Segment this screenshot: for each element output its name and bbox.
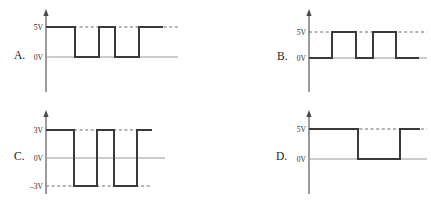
y-axis-arrow-icon xyxy=(306,110,311,117)
tick-label-zero: 0V xyxy=(297,54,307,63)
panel-c: 3V 0V –3V C. xyxy=(0,102,215,204)
panel-a: 5V 0V A. xyxy=(0,0,215,102)
y-axis-arrow-icon xyxy=(43,9,48,16)
tick-label-zero: 0V xyxy=(34,154,44,163)
panel-d: 5V 0V D. xyxy=(215,102,430,204)
tick-label-zero: 0V xyxy=(34,53,44,62)
tick-label-high: 5V xyxy=(297,28,307,37)
tick-label-high: 5V xyxy=(34,23,44,32)
waveform-figure: 5V 0V A. 5V 0V B. xyxy=(0,0,431,205)
y-axis-arrow-icon xyxy=(306,9,311,16)
tick-label-high: 5V xyxy=(297,125,307,134)
panel-letter-c: C. xyxy=(14,150,25,162)
waveform-trace xyxy=(46,27,163,57)
panel-letter-d: D. xyxy=(276,150,287,162)
y-axis-arrow-icon xyxy=(43,110,48,117)
waveform-trace xyxy=(309,32,419,58)
panel-b: 5V 0V B. xyxy=(215,0,430,102)
tick-label-high: 3V xyxy=(34,126,44,135)
panel-letter-a: A. xyxy=(14,49,25,61)
tick-label-low: –3V xyxy=(29,182,44,191)
tick-label-zero: 0V xyxy=(297,155,307,164)
panel-letter-b: B. xyxy=(277,50,288,62)
waveform-trace xyxy=(309,129,420,159)
